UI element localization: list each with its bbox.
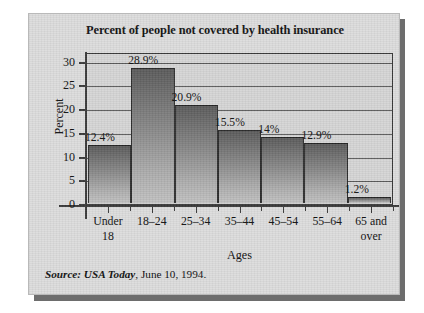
bar-slot: 12.4% xyxy=(88,55,131,203)
x-tick-center xyxy=(240,207,241,213)
y-tick-label: 25 xyxy=(39,78,75,93)
x-axis-title: Ages xyxy=(86,248,393,263)
figure-panel: Percent of people not covered by health … xyxy=(28,13,400,295)
y-tick-mark xyxy=(79,133,86,135)
x-axis-line xyxy=(59,205,399,207)
bar-value-label: 1.2% xyxy=(344,183,370,196)
x-axis-label-line2: over xyxy=(349,229,393,244)
source-note: Source: USA Today, June 10, 1994. xyxy=(45,268,206,280)
x-tick-boundary xyxy=(393,207,394,211)
x-axis-label: 25–34 xyxy=(174,214,218,244)
x-axis-label-line1: 35–44 xyxy=(225,214,255,228)
source-publication: Source: USA Today xyxy=(45,268,135,280)
y-tick-label: 5 xyxy=(39,173,75,188)
x-axis-label-line1: 65 and xyxy=(355,214,387,228)
x-tick-boundary xyxy=(261,207,262,211)
x-tick-center xyxy=(283,207,284,213)
source-date: , June 10, 1994. xyxy=(135,268,206,280)
y-axis-line xyxy=(85,52,87,219)
x-axis-label-line2: 18 xyxy=(86,229,130,244)
x-tick-center xyxy=(371,207,372,213)
bar-value-label: 14% xyxy=(257,123,280,136)
panel-shadow-right xyxy=(400,19,405,301)
x-tick-center xyxy=(196,207,197,213)
bar-value-label: 15.5% xyxy=(214,116,246,129)
x-tick-boundary xyxy=(349,207,350,211)
panel-shadow-bottom xyxy=(34,295,405,301)
x-axis-label-line1: 25–34 xyxy=(181,214,211,228)
bar-slot: 28.9% xyxy=(131,55,174,203)
y-tick-label: 10 xyxy=(39,150,75,165)
x-tick-boundary xyxy=(218,207,219,211)
y-tick-label: 0 xyxy=(39,197,75,212)
x-tick-center xyxy=(152,207,153,213)
bar-value-label: 20.9% xyxy=(171,91,203,104)
bar[interactable] xyxy=(304,143,347,203)
bar-slot: 14% xyxy=(261,55,304,203)
plot-area: 12.4%28.9%20.9%15.5%14%12.9%1.2% xyxy=(86,53,393,205)
bar[interactable] xyxy=(348,197,391,203)
bar-slot: 15.5% xyxy=(218,55,261,203)
y-tick-label: 20 xyxy=(39,102,75,117)
x-axis-label: 45–54 xyxy=(261,214,305,244)
bar-value-label: 12.9% xyxy=(300,129,332,142)
x-tick-center xyxy=(327,207,328,213)
x-tick-boundary xyxy=(174,207,175,211)
y-tick-label: 30 xyxy=(39,55,75,70)
x-tick-boundary xyxy=(86,207,87,211)
bar[interactable] xyxy=(175,105,218,203)
bar-slot: 12.9% xyxy=(304,55,347,203)
y-tick-mark xyxy=(79,157,86,159)
bar[interactable] xyxy=(218,130,261,203)
y-tick-label: 15 xyxy=(39,126,75,141)
x-axis-label: 35–44 xyxy=(218,214,262,244)
y-tick-mark xyxy=(79,62,86,64)
bar-slot: 1.2% xyxy=(348,55,391,203)
bar[interactable] xyxy=(88,145,131,203)
bar[interactable] xyxy=(261,137,304,203)
y-tick-mark xyxy=(79,109,86,111)
x-axis-label: 18–24 xyxy=(130,214,174,244)
x-tick-boundary xyxy=(130,207,131,211)
x-axis-label-line1: 18–24 xyxy=(137,214,167,228)
y-tick-mark xyxy=(79,204,86,206)
x-axis-labels: Under1818–2425–3435–4445–5455–6465 andov… xyxy=(86,214,393,244)
x-tick-boundary xyxy=(305,207,306,211)
x-axis-label: 55–64 xyxy=(305,214,349,244)
x-axis-label-line1: 55–64 xyxy=(312,214,342,228)
chart-title: Percent of people not covered by health … xyxy=(29,23,401,38)
plot-area-wrapper: 12.4%28.9%20.9%15.5%14%12.9%1.2% xyxy=(86,53,393,205)
x-axis-label-line1: Under xyxy=(93,214,122,228)
bar-value-label: 12.4% xyxy=(84,131,116,144)
x-axis-label-line1: 45–54 xyxy=(269,214,299,228)
y-tick-mark xyxy=(79,85,86,87)
bar-value-label: 28.9% xyxy=(127,54,159,67)
bar-slot: 20.9% xyxy=(175,55,218,203)
y-tick-mark xyxy=(79,180,86,182)
x-axis-label: 65 andover xyxy=(349,214,393,244)
bars-layer: 12.4%28.9%20.9%15.5%14%12.9%1.2% xyxy=(88,55,391,203)
x-tick-center xyxy=(108,207,109,213)
bar[interactable] xyxy=(131,68,174,203)
x-axis-label: Under18 xyxy=(86,214,130,244)
